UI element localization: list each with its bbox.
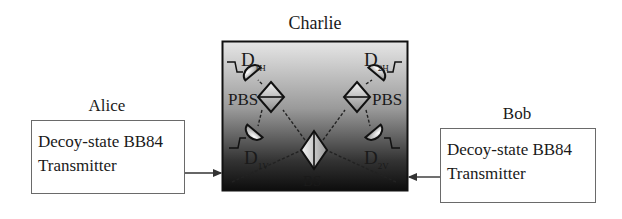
pbs-left-label: PBS	[228, 90, 258, 109]
charlie-measurement-diagram: D1H D2H D1V D2V PBS PBS BS	[0, 0, 622, 219]
pbs-right-label: PBS	[372, 90, 402, 109]
bs-label: BS	[303, 173, 321, 189]
